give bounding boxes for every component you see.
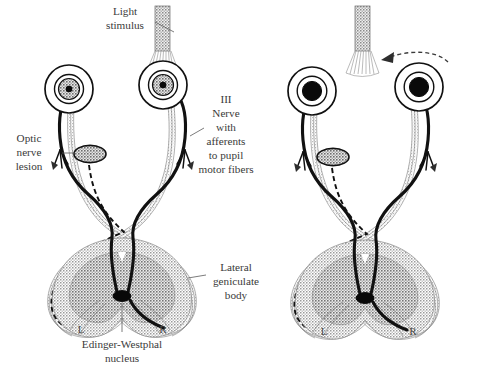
marker-right-right-panel: R [409, 325, 417, 337]
label-third-nerve-line6: motor fibers [199, 163, 254, 175]
label-edinger-westphal-line1: Edinger-Westphal [82, 338, 162, 350]
label-third-nerve-line5: to pupil [209, 149, 244, 161]
label-third-nerve-line1: III [220, 93, 231, 105]
edinger-westphal-nucleus-icon [356, 293, 374, 304]
diagram-canvas: L R [0, 0, 486, 369]
panel-left[interactable]: L R [0, 0, 243, 369]
lesion-oval-icon [74, 145, 106, 162]
pupil-dilated [302, 81, 321, 100]
pupil-constricted [66, 86, 73, 93]
right-eye-left-panel[interactable] [139, 61, 187, 109]
label-light-stimulus-line2: stimulus [106, 19, 144, 31]
lesion-oval-icon [317, 148, 349, 165]
light-beam-icon [355, 6, 370, 51]
figure-root: L R [0, 0, 486, 369]
label-third-nerve-line3: with [216, 121, 236, 133]
marker-left-left-panel: L [78, 323, 85, 335]
label-optic-nerve-lesion-line3: lesion [16, 160, 43, 172]
label-third-nerve-line2: Nerve [212, 107, 239, 119]
marker-right-left-panel: R [159, 323, 167, 335]
left-eye-right-panel[interactable] [288, 67, 336, 115]
edinger-westphal-nucleus-icon [113, 291, 131, 302]
label-edinger-westphal-line2: nucleus [105, 352, 139, 364]
left-eye-left-panel[interactable] [45, 65, 93, 113]
label-lateral-geniculate-line2: geniculate [213, 275, 259, 287]
label-third-nerve-line4: afferents [207, 135, 246, 147]
label-light-stimulus-line1: Light [113, 5, 138, 17]
right-eye-right-panel[interactable] [395, 63, 443, 111]
pupil-constricted [160, 82, 167, 89]
label-optic-nerve-lesion-line1: Optic [17, 132, 42, 144]
label-optic-nerve-lesion-line2: nerve [17, 146, 42, 158]
label-lateral-geniculate-line1: Lateral [220, 261, 252, 273]
panel-right[interactable]: L R [243, 0, 486, 369]
marker-left-right-panel: L [321, 325, 328, 337]
label-lateral-geniculate-line3: body [225, 289, 248, 301]
pupil-dilated [409, 77, 428, 96]
